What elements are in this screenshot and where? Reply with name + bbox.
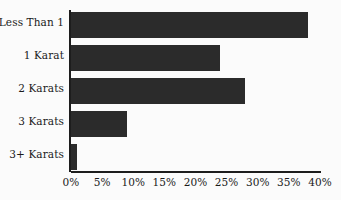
category-label-1: 1 Karat [0, 49, 64, 61]
x-tick-label-2: 10% [116, 176, 150, 188]
bar-3-plus-karats [71, 144, 77, 170]
category-label-2: 2 Karats [0, 82, 64, 94]
x-tick-label-5: 25% [210, 176, 244, 188]
plot-area [71, 10, 320, 172]
bar-row [71, 78, 245, 104]
bar-1-karat [71, 45, 220, 71]
x-tick-label-4: 20% [179, 176, 213, 188]
category-label-4: 3+ Karats [0, 148, 64, 160]
x-tick-label-1: 5% [85, 176, 119, 188]
bar-less-than-1 [71, 12, 308, 38]
category-label-3: 3 Karats [0, 115, 64, 127]
x-tick-label-6: 30% [241, 176, 275, 188]
x-tick-label-8: 40% [303, 176, 337, 188]
x-tick-label-0: 0% [54, 176, 88, 188]
bar-row [71, 144, 77, 170]
bar-2-karats [71, 78, 245, 104]
bar-3-karats [71, 111, 127, 137]
bar-row [71, 111, 127, 137]
x-tick-label-7: 35% [272, 176, 306, 188]
bar-row [71, 12, 308, 38]
bar-chart: Less Than 1 1 Karat 2 Karats 3 Karats 3+… [0, 0, 341, 200]
x-tick-label-3: 15% [147, 176, 181, 188]
bar-row [71, 45, 220, 71]
category-label-0: Less Than 1 [0, 16, 64, 28]
